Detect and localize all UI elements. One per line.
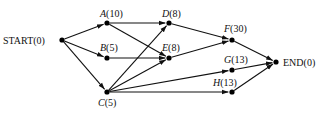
node-c xyxy=(104,89,109,94)
node-label-e: E(8) xyxy=(161,42,180,54)
node-label-start: START(0) xyxy=(3,35,45,47)
node-a xyxy=(104,20,109,25)
node-e xyxy=(166,55,171,60)
node-label-d: D(8) xyxy=(161,8,181,20)
node-h xyxy=(229,89,234,94)
node-label-f: F(30) xyxy=(223,23,247,35)
edge-e-to-f xyxy=(171,41,228,57)
node-label-g: G(13) xyxy=(224,54,248,66)
node-label-end: END(0) xyxy=(283,57,315,69)
project-network-diagram: START(0)A(10)B(5)C(5)D(8)E(8)F(30)G(13)H… xyxy=(0,0,330,116)
node-end xyxy=(273,59,278,64)
node-label-c: C(5) xyxy=(98,97,116,109)
node-f xyxy=(229,37,234,42)
edge-start-to-a xyxy=(64,24,103,39)
node-d xyxy=(166,20,171,25)
node-g xyxy=(229,67,234,72)
node-label-b: B(5) xyxy=(100,42,118,54)
node-b xyxy=(104,55,109,60)
node-start xyxy=(59,37,64,42)
node-label-a: A(10) xyxy=(99,8,123,20)
edge-d-to-f xyxy=(172,24,229,39)
node-label-h: H(13) xyxy=(212,77,237,89)
